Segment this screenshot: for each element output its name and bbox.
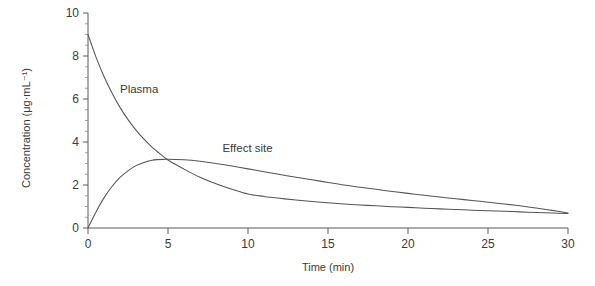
x-tick-label: 30 [561, 237, 575, 251]
y-tick-label: 6 [72, 92, 79, 106]
y-tick-label: 8 [72, 49, 79, 63]
data-curves [88, 35, 568, 229]
y-tick-label: 10 [66, 6, 80, 20]
curve-label-plasma: Plasma [120, 83, 159, 95]
pharmacokinetic-chart-figure: Concentration (μg·mL⁻¹) Time (min) 02468… [0, 0, 595, 286]
axis-lines [88, 13, 568, 228]
y-axis-title: Concentration (μg·mL⁻¹) [20, 68, 32, 188]
y-axis-tick-labels: 0246810 [66, 6, 80, 235]
x-tick-label: 5 [165, 237, 172, 251]
x-tick-label: 25 [481, 237, 495, 251]
curve-effect-site [88, 159, 568, 228]
curve-label-effect-site: Effect site [222, 142, 272, 154]
x-axis-tick-labels: 051015202530 [85, 237, 575, 251]
x-axis-ticks [88, 228, 568, 234]
x-axis-title: Time (min) [302, 261, 354, 273]
curve-plasma [88, 35, 568, 214]
x-tick-label: 20 [401, 237, 415, 251]
curve-annotations: PlasmaEffect site [120, 83, 273, 154]
y-tick-label: 0 [72, 221, 79, 235]
y-axis-ticks [83, 13, 88, 228]
chart-canvas: Concentration (μg·mL⁻¹) Time (min) 02468… [0, 0, 595, 286]
x-tick-label: 0 [85, 237, 92, 251]
y-tick-label: 4 [72, 135, 79, 149]
y-tick-label: 2 [72, 178, 79, 192]
x-tick-label: 15 [321, 237, 335, 251]
x-tick-label: 10 [241, 237, 255, 251]
